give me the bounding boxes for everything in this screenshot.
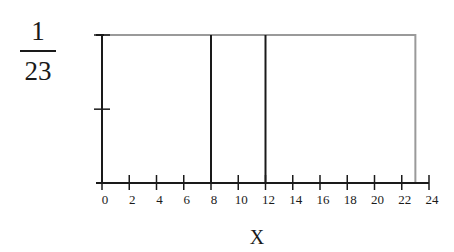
x-tick-label: 24	[426, 192, 440, 207]
x-tick-label: 8	[211, 192, 218, 207]
x-tick-label: 10	[235, 192, 248, 207]
x-tick-label: 6	[184, 192, 191, 207]
x-tick-label: 12	[262, 192, 275, 207]
x-tick-label: 2	[129, 192, 136, 207]
x-tick-label: 20	[371, 192, 384, 207]
plot-area: 024681012141618202224	[94, 35, 439, 207]
x-tick-label: 14	[289, 192, 303, 207]
x-tick-label: 16	[317, 192, 331, 207]
x-tick-label: 4	[156, 192, 163, 207]
density-outline	[102, 35, 415, 183]
x-axis-label: X	[250, 226, 265, 248]
x-tick-label: 18	[344, 192, 357, 207]
x-tick-label: 22	[398, 192, 411, 207]
x-tick-label: 0	[102, 192, 109, 207]
density-chart: 024681012141618202224 X	[0, 0, 454, 252]
